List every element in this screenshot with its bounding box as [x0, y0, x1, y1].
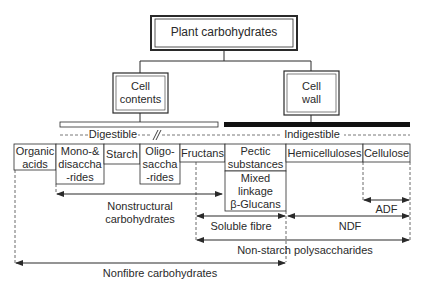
mono-line-1: Mono-& [56, 145, 104, 158]
cell-contents-line-2: contents [116, 93, 165, 106]
digestible-label: Digestible [88, 128, 138, 141]
pectic-line-2: substances [225, 158, 286, 171]
organic-acids-line-1: Organic [14, 145, 56, 158]
organic-acids-line-2: acids [14, 158, 56, 171]
component-oligosaccharides: Oligo- saccha -rides [140, 145, 180, 184]
cellulose-line-1: Cellulose [363, 147, 410, 160]
nonfibre-label: Nonfibre carbohydrates [80, 267, 240, 280]
mono-line-2: disaccha [56, 158, 104, 171]
ndf-label: NDF [300, 220, 400, 233]
mixed-line-2: linkage [225, 185, 286, 198]
digestible-bar [60, 122, 218, 127]
oligo-line-3: -rides [140, 171, 180, 184]
component-fructans: Fructans [180, 147, 225, 160]
component-cellulose: Cellulose [363, 147, 410, 160]
nonstructural-line-2: carbohydrates [80, 213, 200, 226]
cell-contents-line-1: Cell [116, 80, 165, 93]
component-pectic-substances: Pectic substances [225, 145, 286, 171]
nsp-label: Non-starch polysaccharides [220, 244, 390, 257]
oligo-line-1: Oligo- [140, 145, 180, 158]
cell-contents-label: Cell contents [116, 80, 165, 106]
plant-carbohydrates-label: Plant carbohydrates [155, 26, 293, 39]
mono-line-3: -rides [56, 171, 104, 184]
component-hemicelluloses: Hemicelluloses [286, 147, 363, 160]
nonstructural-label: Nonstructural carbohydrates [80, 200, 200, 226]
indigestible-label: Indigestible [280, 128, 344, 141]
cell-wall-line-2: wall [287, 93, 336, 106]
nonstructural-line-1: Nonstructural [80, 200, 200, 213]
adf-label: ADF [363, 203, 410, 216]
indigestible-bar [224, 122, 410, 127]
hemicelluloses-line-1: Hemicelluloses [286, 147, 363, 160]
component-starch: Starch [104, 148, 140, 161]
starch-line-1: Starch [104, 148, 140, 161]
oligo-line-2: saccha [140, 158, 180, 171]
cell-wall-line-1: Cell [287, 80, 336, 93]
component-mixed-linkage-beta-glucans: Mixed linkage β-Glucans [225, 172, 286, 211]
component-organic-acids: Organic acids [14, 145, 56, 171]
mixed-line-3: β-Glucans [225, 198, 286, 211]
cell-wall-label: Cell wall [287, 80, 336, 106]
break-mark [153, 130, 161, 140]
mixed-line-1: Mixed [225, 172, 286, 185]
pectic-line-1: Pectic [225, 145, 286, 158]
fructans-line-1: Fructans [180, 147, 225, 160]
component-mono-disaccharides: Mono-& disaccha -rides [56, 145, 104, 184]
soluble-fibre-label: Soluble fibre [197, 220, 285, 233]
